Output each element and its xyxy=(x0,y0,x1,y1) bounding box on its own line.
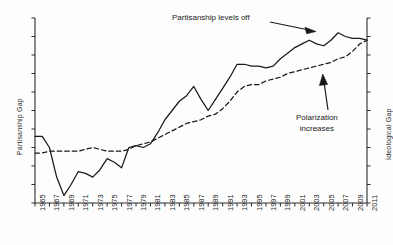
x-tick-label: 1991 xyxy=(226,194,235,211)
x-tick-label: 2003 xyxy=(312,194,321,211)
left-axis-title: Partisanship Gap xyxy=(16,98,23,155)
annotation-polarization-line1: Polarization xyxy=(296,113,338,122)
x-tick-label: 1997 xyxy=(269,194,278,211)
x-tick-label: 2001 xyxy=(298,194,307,211)
x-tick-label: 1993 xyxy=(240,194,249,211)
arrow-head xyxy=(305,27,316,34)
x-tick-label: 1967 xyxy=(52,194,61,211)
x-tick-label: 2009 xyxy=(356,194,365,211)
x-tick-label: 1981 xyxy=(153,194,162,211)
x-tick-label: 1995 xyxy=(255,194,264,211)
arrow-head xyxy=(319,74,327,86)
x-tick-label: 1999 xyxy=(283,194,292,211)
series-line-ideological-gap xyxy=(35,40,367,153)
annotation-partisanship-levels-off: Partisanship levels off xyxy=(172,13,250,24)
x-tick-label: 1985 xyxy=(182,194,191,211)
x-tick-label: 1979 xyxy=(139,194,148,211)
annotation-arrow-polarization xyxy=(319,74,328,110)
x-tick-label: 1987 xyxy=(197,194,206,211)
x-tick-label: 2011 xyxy=(370,195,379,211)
arrow-shaft xyxy=(324,82,328,110)
x-tick-label: 2007 xyxy=(341,194,350,211)
x-tick-label: 1969 xyxy=(67,194,76,211)
x-tick-label: 1977 xyxy=(125,194,134,211)
x-tick-label: 1983 xyxy=(168,194,177,211)
x-tick-label: 1975 xyxy=(110,194,119,211)
x-tick-label: 1973 xyxy=(96,194,105,211)
annotation-arrow-levels-off xyxy=(270,22,316,34)
chart-figure: Partisanship Gap Ideological Gap 1965196… xyxy=(0,0,393,245)
x-tick-label: 1989 xyxy=(211,194,220,211)
x-tick-label: 2005 xyxy=(327,194,336,211)
x-tick-label: 1965 xyxy=(38,194,47,211)
axes xyxy=(35,18,367,203)
x-tick-label: 1971 xyxy=(81,194,90,211)
right-axis-title: Ideological Gap xyxy=(385,108,392,160)
arrow-shaft xyxy=(270,22,309,30)
annotation-polarization-line2: increases xyxy=(296,124,338,135)
annotation-polarization-increases: Polarization increases xyxy=(296,113,338,134)
